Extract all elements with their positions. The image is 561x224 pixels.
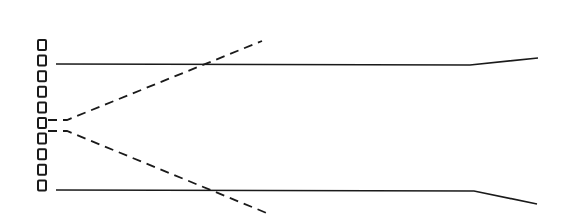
array-element bbox=[38, 134, 46, 144]
upper-ray bbox=[56, 58, 538, 65]
upper-dashed-ray bbox=[48, 41, 262, 120]
lower-ray bbox=[56, 190, 537, 204]
element-array bbox=[38, 40, 46, 190]
ray-diagram bbox=[0, 0, 561, 224]
array-element bbox=[38, 165, 46, 175]
lower-dashed-ray bbox=[48, 131, 269, 214]
dashed-rays bbox=[48, 41, 269, 214]
array-element bbox=[38, 87, 46, 97]
array-element bbox=[38, 71, 46, 81]
array-element bbox=[38, 56, 46, 66]
array-element bbox=[38, 40, 46, 50]
solid-rays bbox=[56, 58, 538, 204]
array-element bbox=[38, 102, 46, 112]
array-element bbox=[38, 180, 46, 190]
array-element bbox=[38, 149, 46, 159]
array-element bbox=[38, 118, 46, 128]
